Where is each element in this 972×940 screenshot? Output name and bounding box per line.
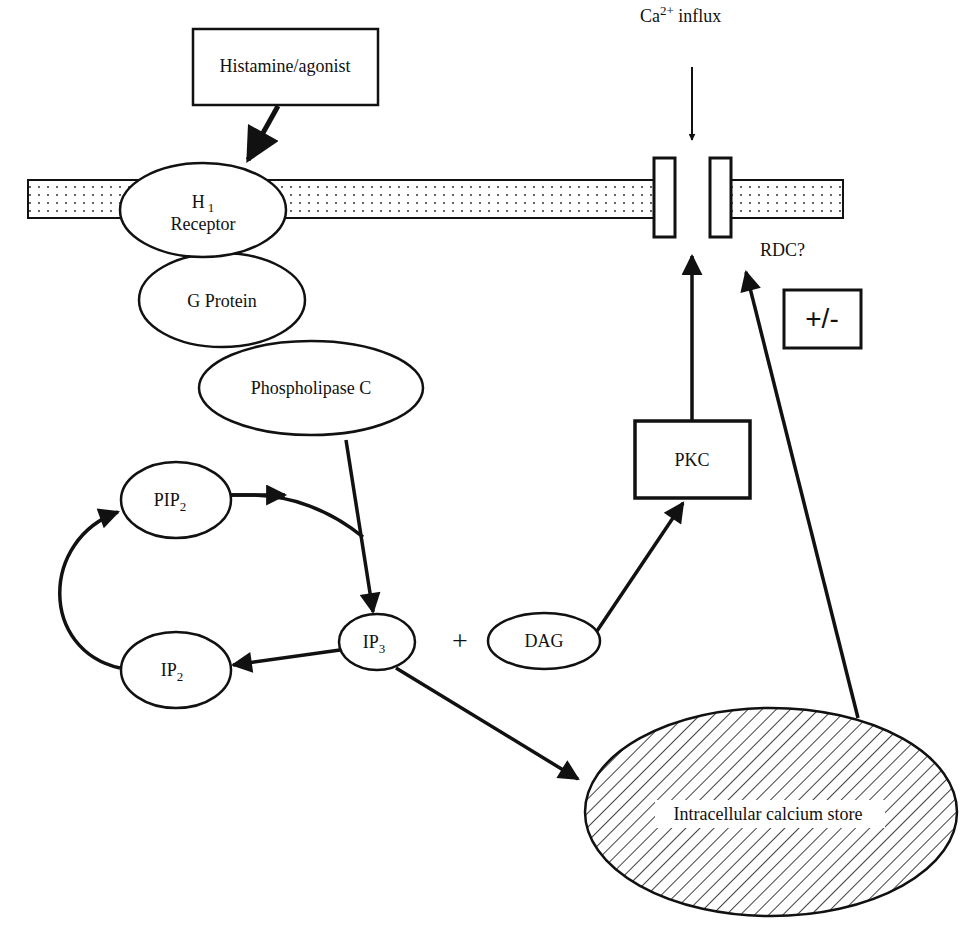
h1-receptor-node: H1 Receptor [120, 163, 286, 257]
pathway-diagram: Histamine/agonist Phospholipase C G Prot… [0, 0, 972, 940]
receptor-label: Receptor [171, 214, 236, 234]
histamine-agonist-label: Histamine/agonist [220, 56, 351, 76]
rdc-label: RDC? [760, 240, 805, 260]
g-protein-node: G Protein [139, 253, 305, 347]
phospholipase-c-label: Phospholipase C [251, 378, 372, 398]
dag-label: DAG [525, 631, 564, 651]
phospholipase-c-node: Phospholipase C [199, 341, 423, 435]
arrow-ip3-to-ip2 [233, 650, 340, 665]
arrow-ip3-to-store [396, 668, 578, 779]
arrow-ip2-to-pip2 [60, 512, 120, 668]
calcium-channel [654, 158, 731, 237]
histamine-agonist-box: Histamine/agonist [193, 29, 378, 105]
calcium-store-node: Intracellular calcium store [585, 708, 957, 916]
h1-label: H [192, 192, 205, 212]
calcium-store-label: Intracellular calcium store [674, 804, 863, 824]
arrow-dag-to-pkc [597, 503, 683, 631]
g-protein-label: G Protein [187, 291, 257, 311]
modulation-box: +/- [784, 290, 861, 348]
ip3-node: IP3 [339, 614, 415, 670]
plus-sign: + [452, 625, 468, 656]
path-pip2-to-ip3 [231, 495, 363, 537]
dag-node: DAG [488, 613, 600, 669]
modulation-label: +/- [805, 303, 838, 334]
calcium-influx-label: Ca2+ influx [640, 3, 721, 26]
pkc-label: PKC [674, 450, 709, 470]
ip2-node: IP2 [121, 632, 231, 708]
pip2-node: PIP2 [121, 462, 231, 538]
arrow-agonist-to-receptor [248, 106, 278, 160]
pkc-box: PKC [635, 421, 750, 498]
